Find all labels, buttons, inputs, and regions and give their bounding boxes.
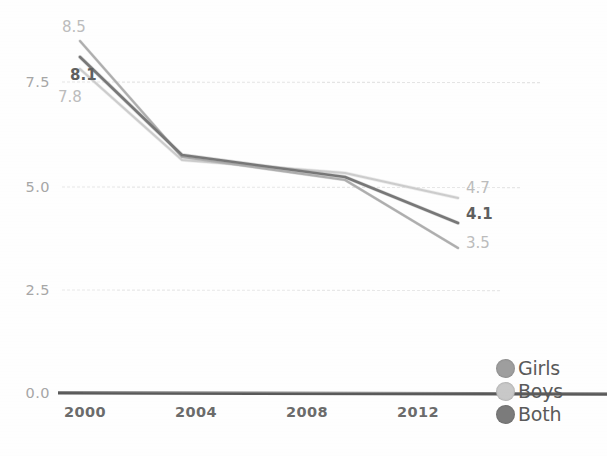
legend-marker-girls-icon — [496, 359, 515, 378]
y-tick-0-0: 0.0 — [4, 385, 50, 401]
legend-label-boys: Boys — [518, 382, 563, 401]
data-label-boys-start: 7.8 — [58, 88, 82, 106]
chart-canvas: 7.5 5.0 2.5 0.0 2000 2004 2008 2012 8.5 … — [0, 0, 607, 456]
legend-marker-both-icon — [496, 405, 515, 424]
data-label-girls-start: 8.5 — [62, 18, 86, 36]
legend-item-boys[interactable]: Boys — [496, 380, 604, 403]
data-label-boys-end: 4.7 — [466, 179, 490, 197]
series-line-girls — [80, 41, 458, 248]
x-tick-2012: 2012 — [383, 404, 453, 420]
data-label-both-start: 8.1 — [70, 66, 97, 84]
series-line-boys — [80, 69, 458, 198]
legend-label-girls: Girls — [518, 359, 560, 378]
legend-item-girls[interactable]: Girls — [496, 357, 604, 380]
x-tick-2004: 2004 — [161, 404, 231, 420]
x-tick-2000: 2000 — [50, 404, 120, 420]
data-label-both-end: 4.1 — [466, 205, 493, 223]
y-tick-2-5: 2.5 — [4, 282, 50, 298]
legend-item-both[interactable]: Both — [496, 403, 604, 426]
x-tick-2008: 2008 — [272, 404, 342, 420]
legend-marker-boys-icon — [496, 382, 515, 401]
y-tick-7-5: 7.5 — [4, 74, 50, 90]
data-label-girls-end: 3.5 — [466, 234, 490, 252]
y-tick-5-0: 5.0 — [4, 179, 50, 195]
legend-label-both: Both — [518, 405, 561, 424]
chart-legend: Girls Boys Both — [496, 357, 604, 426]
